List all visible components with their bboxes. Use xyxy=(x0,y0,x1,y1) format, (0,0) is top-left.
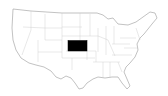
us-map xyxy=(0,0,168,96)
state-kansas xyxy=(68,41,87,52)
